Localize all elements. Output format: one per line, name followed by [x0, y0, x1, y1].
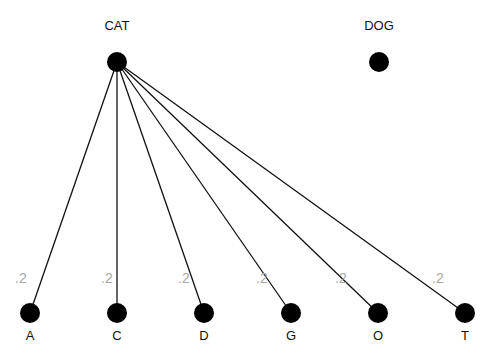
edge-weights-layer: .2.2.2.2.2.2: [15, 270, 444, 286]
edges-layer: [30, 62, 465, 313]
node-a: [20, 303, 40, 323]
node-d: [194, 303, 214, 323]
node-label-t: T: [461, 328, 469, 343]
edge-weight-label: .2: [15, 270, 27, 286]
node-cat: [107, 52, 127, 72]
edge-weight-label: .2: [101, 270, 113, 286]
edge-weight-label: .2: [256, 270, 268, 286]
edge-cat-t: [117, 62, 465, 313]
edge-weight-label: .2: [178, 270, 190, 286]
node-label-cat: CAT: [104, 18, 129, 33]
node-label-dog: DOG: [364, 18, 394, 33]
node-labels-layer: CATDOGACDGOT: [26, 18, 469, 343]
node-g: [281, 303, 301, 323]
node-c: [107, 303, 127, 323]
edge-cat-d: [117, 62, 204, 313]
node-t: [455, 303, 475, 323]
edge-weight-label: .2: [335, 270, 347, 286]
node-label-o: O: [373, 328, 383, 343]
node-o: [368, 303, 388, 323]
bipartite-diagram: .2.2.2.2.2.2 CATDOGACDGOT: [0, 0, 493, 357]
node-label-a: A: [26, 328, 35, 343]
node-dog: [369, 52, 389, 72]
node-label-d: D: [199, 328, 208, 343]
edge-weight-label: .2: [432, 270, 444, 286]
node-label-g: G: [286, 328, 296, 343]
node-label-c: C: [112, 328, 121, 343]
